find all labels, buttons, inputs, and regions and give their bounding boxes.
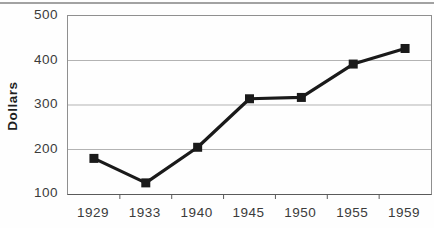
data-point-marker	[89, 154, 98, 163]
y-tick-label: 200	[18, 142, 58, 156]
x-tick-label: 1945	[223, 205, 275, 220]
y-tick-label: 300	[18, 97, 58, 111]
data-point-marker	[245, 94, 254, 103]
x-tick-label: 1959	[378, 205, 430, 220]
x-tick-label: 1933	[119, 205, 171, 220]
line-series-canvas	[68, 16, 431, 194]
y-tick-label: 400	[18, 53, 58, 67]
y-tick-label: 500	[18, 8, 58, 22]
data-point-marker	[141, 178, 150, 187]
x-tick-label: 1940	[171, 205, 223, 220]
x-tick-label: 1929	[67, 205, 119, 220]
x-tick-label: 1950	[274, 205, 326, 220]
top-rule-divider	[0, 2, 434, 4]
line-chart-figure: Dollars 100200300400500 1929193319401945…	[0, 0, 434, 228]
x-tick-label: 1955	[326, 205, 378, 220]
y-tick-label: 100	[18, 186, 58, 200]
plot-area	[67, 15, 432, 195]
data-line	[94, 48, 405, 182]
data-point-marker	[349, 60, 358, 69]
data-point-marker	[297, 93, 306, 102]
data-point-marker	[401, 44, 410, 53]
data-point-marker	[193, 143, 202, 152]
